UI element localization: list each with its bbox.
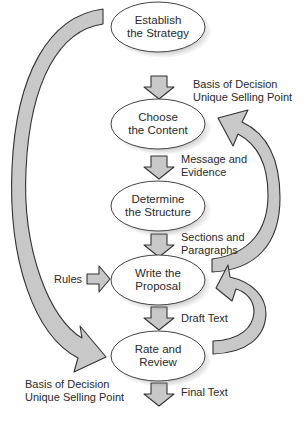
node-structure-text: Determine the Structure — [108, 193, 208, 219]
arrow-strategy-to-content — [144, 76, 174, 99]
node-content-text: Choose the Content — [108, 111, 208, 137]
label-message-evidence: Message and Evidence — [181, 153, 247, 178]
label-basis-usp-bottom: Basis of Decision Unique Selling Point — [25, 378, 124, 403]
label-rules: Rules — [54, 273, 82, 286]
curved-arrow-review-to-write — [213, 265, 266, 354]
curved-arrow-strategy-to-review — [12, 9, 106, 372]
arrow-content-to-structure — [144, 156, 174, 179]
arrow-rules-to-write — [87, 266, 110, 292]
label-draft-text: Draft Text — [181, 312, 228, 325]
node-review-text: Rate and Review — [108, 343, 208, 369]
arrow-structure-to-write — [144, 234, 174, 257]
label-sections-paragraphs: Sections and Paragraphs — [181, 231, 245, 256]
label-basis-usp-top: Basis of Decision Unique Selling Point — [193, 78, 292, 103]
node-strategy-text: Establish the Strategy — [108, 14, 208, 40]
label-final-text: Final Text — [181, 386, 228, 399]
node-write-text: Write the Proposal — [108, 267, 208, 293]
